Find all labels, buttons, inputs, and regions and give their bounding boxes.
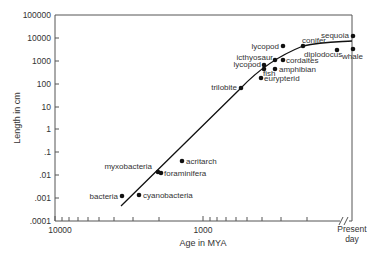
y-tick-label: .1 (44, 147, 51, 157)
x-tick-label-10000: 10000 (48, 225, 72, 235)
label-cyanobacteria: cyanobacteria (143, 191, 193, 200)
point-foraminifera (159, 171, 164, 176)
point-cyanobacteria (137, 193, 142, 198)
label-trilobite: trilobite (211, 83, 237, 92)
y-tick-label: 10000 (27, 33, 51, 43)
label-bacteria: bacteria (90, 192, 119, 201)
point-trilobite (239, 86, 244, 91)
point-icthyosaur (273, 58, 278, 63)
point-whale (351, 47, 356, 52)
label-amphibian: amphibian (279, 65, 316, 74)
point-lycopod-upper (281, 44, 286, 49)
label-acritarch: acritarch (186, 157, 217, 166)
x-tick-label-1000: 1000 (194, 225, 213, 235)
label-diplodocus: diplodocus (304, 50, 342, 59)
y-axis-tick-labels: 100000 10000 1000 100 10 1 .1 .01 .001 .… (23, 10, 52, 226)
x-axis-title: Age in MYA (180, 238, 227, 248)
size-evolution-chart: 100000 10000 1000 100 10 1 .1 .01 .001 .… (0, 0, 386, 261)
y-tick-label: 1 (46, 124, 51, 134)
x-tick-label-present: Present (337, 224, 367, 234)
point-sequoia (351, 34, 356, 39)
y-tick-label: 10 (42, 102, 52, 112)
label-foraminifera: foraminifera (164, 169, 207, 178)
y-tick-label: .001 (34, 193, 51, 203)
y-tick-label: 100000 (23, 10, 52, 20)
y-tick-label: 1000 (32, 56, 51, 66)
y-axis-title: Length in cm (12, 92, 22, 144)
point-acritarch (180, 159, 185, 164)
y-axis-ticks (55, 38, 59, 198)
point-bacteria (120, 194, 125, 199)
point-labels: bacteria cyanobacteria myxobacteria fora… (90, 31, 364, 201)
y-tick-label: 100 (37, 79, 51, 89)
label-icthyosaur: icthyosaur (237, 53, 274, 62)
point-lycopod-lower (262, 63, 267, 68)
plot-frame (55, 15, 352, 221)
label-myxobacteria: myxobacteria (104, 162, 152, 171)
label-whale: whale (341, 52, 363, 61)
label-fish: fish (263, 69, 275, 78)
label-sequoia: sequoia (321, 31, 350, 40)
y-tick-label: .01 (39, 170, 51, 180)
x-tick-label-day: day (345, 234, 359, 244)
x-axis-ticks (55, 216, 307, 221)
point-cordaites (281, 58, 286, 63)
label-lycopod-upper: lycopod (251, 42, 279, 51)
